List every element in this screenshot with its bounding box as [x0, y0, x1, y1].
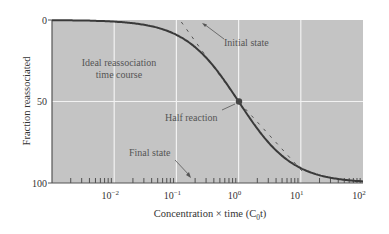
half-reaction-point	[236, 98, 242, 104]
ideal-course-label-line2: time course	[96, 69, 143, 80]
x-tick-labels: 10−210−1100101102	[101, 189, 366, 201]
y-tick-label: 50	[37, 96, 47, 107]
y-tick-label: 100	[32, 178, 47, 189]
y-axis-title: Fraction reassociated	[21, 56, 32, 146]
x-axis-title: Concentration × time (C0t)	[154, 208, 267, 222]
svg-text:102: 102	[352, 189, 366, 201]
initial-state-label: Initial state	[224, 37, 269, 48]
ideal-course-label-line1: Ideal reassociation	[82, 57, 157, 68]
y-tick-label: 0	[42, 15, 47, 26]
svg-text:100: 100	[228, 189, 242, 201]
reassociation-chart: Initial state Ideal reassociation time c…	[0, 0, 389, 234]
final-state-label: Final state	[129, 147, 171, 158]
svg-text:101: 101	[290, 189, 304, 201]
svg-text:10−2: 10−2	[101, 189, 119, 201]
half-reaction-label: Half reaction	[165, 112, 217, 123]
svg-text:10−1: 10−1	[164, 189, 182, 201]
